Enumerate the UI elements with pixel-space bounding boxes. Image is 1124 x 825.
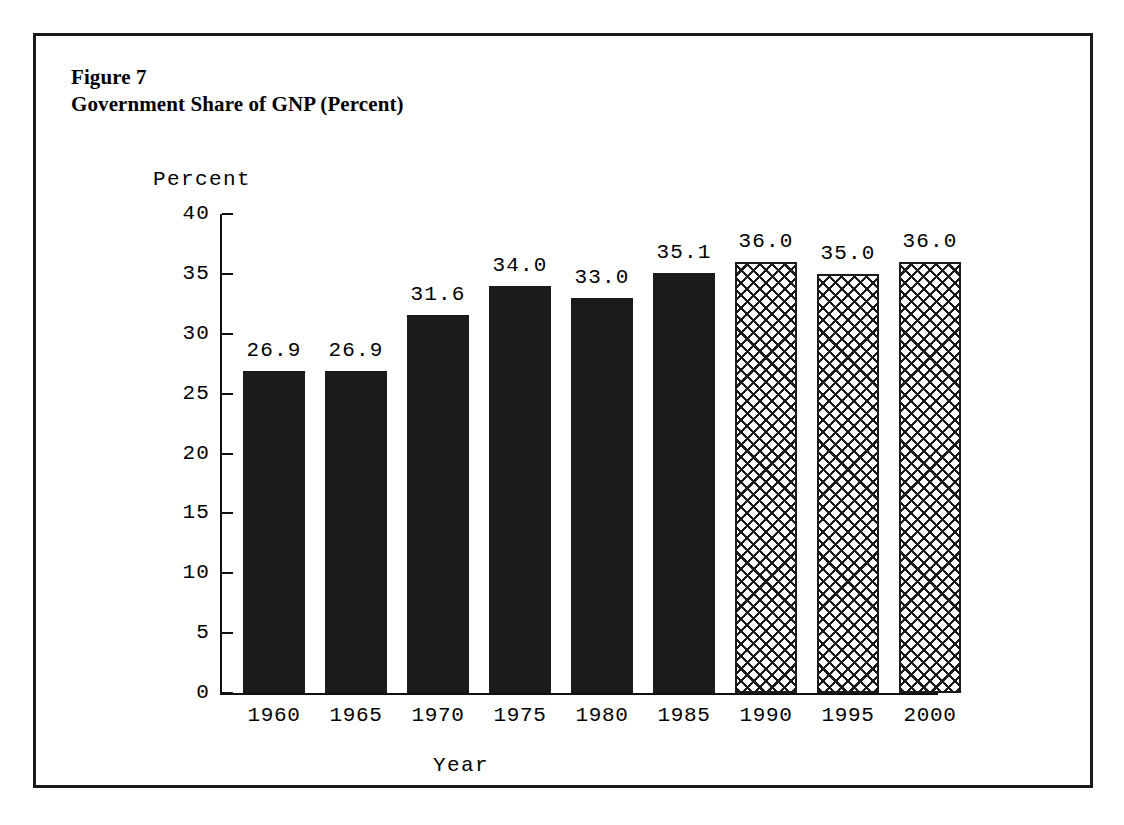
- y-axis-tick: [222, 632, 233, 634]
- x-axis-tick-label: 2000: [882, 704, 978, 727]
- y-axis-tick: [222, 393, 233, 395]
- x-axis-line: [220, 693, 938, 695]
- y-axis-tick-label: 30: [162, 322, 210, 345]
- bar-1975: [489, 286, 551, 693]
- bar-1990: [735, 262, 797, 693]
- bar-1965: [325, 371, 387, 693]
- y-axis-tick-label: 10: [162, 561, 210, 584]
- bar-value-label: 26.9: [308, 339, 404, 362]
- y-axis-tick: [222, 512, 233, 514]
- y-axis-title: Percent: [153, 168, 251, 191]
- y-axis-tick-label: 0: [162, 681, 210, 704]
- bar-1995: [817, 274, 879, 693]
- bar-1960: [243, 371, 305, 693]
- bar-1980: [571, 298, 633, 693]
- y-axis-line: [220, 214, 222, 695]
- y-axis-tick: [222, 213, 233, 215]
- bar-2000: [899, 262, 961, 693]
- figure-frame: Figure 7 Government Share of GNP (Percen…: [33, 33, 1093, 788]
- y-axis-tick: [222, 333, 233, 335]
- x-axis-title: Year: [36, 754, 1096, 777]
- y-axis-tick: [222, 273, 233, 275]
- bar-1970: [407, 315, 469, 693]
- y-axis-tick-label: 15: [162, 501, 210, 524]
- y-axis-tick: [222, 572, 233, 574]
- y-axis-tick: [222, 692, 233, 694]
- bar-1985: [653, 273, 715, 693]
- y-axis-tick: [222, 453, 233, 455]
- bar-value-label: 33.0: [554, 266, 650, 289]
- y-axis-tick-label: 20: [162, 442, 210, 465]
- y-axis-tick-label: 35: [162, 262, 210, 285]
- y-axis-tick-label: 25: [162, 382, 210, 405]
- y-axis-tick-label: 40: [162, 202, 210, 225]
- x-axis-title-text: Year: [433, 754, 489, 777]
- bar-value-label: 31.6: [390, 283, 486, 306]
- bar-chart: Percent 0510152025303540 26.926.931.634.…: [36, 36, 1096, 791]
- y-axis-tick-label: 5: [162, 621, 210, 644]
- bar-value-label: 36.0: [882, 230, 978, 253]
